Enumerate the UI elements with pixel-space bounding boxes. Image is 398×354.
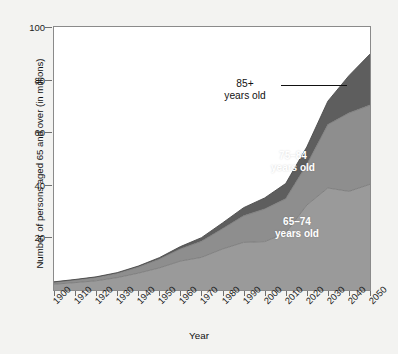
annotation-65-74: 65–74 years old	[262, 216, 332, 240]
x-axis-title: Year	[0, 330, 398, 341]
annotation-75-84: 75–84 years old	[258, 150, 328, 174]
annotation-85-plus-leader-line	[281, 85, 347, 86]
y-tick-mark	[45, 132, 52, 133]
y-axis-title: Number of persons aged 65 and over (in m…	[34, 39, 45, 289]
y-axis: 20406080100	[0, 0, 53, 354]
annotation-85-plus: 85+ years old	[208, 78, 282, 102]
chart-figure: 20406080100 Number of persons aged 65 an…	[0, 0, 398, 354]
y-tick-mark	[45, 185, 52, 186]
y-tick-mark	[45, 237, 52, 238]
y-tick-label: 100	[29, 22, 45, 33]
y-tick-mark	[45, 27, 52, 28]
y-tick-mark	[45, 80, 52, 81]
